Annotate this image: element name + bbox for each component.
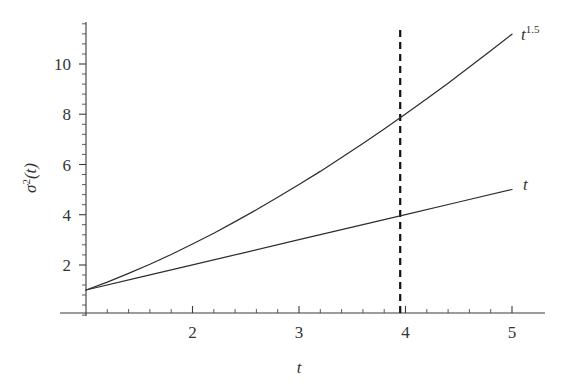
x-tick-label-4: 4 bbox=[401, 323, 410, 342]
y-tick-label-4: 4 bbox=[63, 206, 72, 225]
x-tick-label-3: 3 bbox=[295, 323, 304, 342]
y-tick-label-6: 6 bbox=[63, 156, 72, 175]
y-tick-label-2: 2 bbox=[63, 256, 72, 275]
y-tick-label-10: 10 bbox=[54, 55, 71, 74]
curve-label-exponent: 1.5 bbox=[526, 23, 540, 35]
y-axis-title-group: σ2(t) bbox=[20, 163, 40, 193]
y-axis-title: σ2(t) bbox=[20, 163, 40, 193]
y-tick-label-8: 8 bbox=[63, 105, 72, 124]
x-tick-label-2: 2 bbox=[188, 323, 197, 342]
x-tick-label-5: 5 bbox=[508, 323, 517, 342]
chart-figure: 2 4 6 8 10 σ2(t) bbox=[0, 0, 572, 389]
sigma-squared-vs-t-line-chart: 2 4 6 8 10 σ2(t) bbox=[0, 0, 572, 389]
